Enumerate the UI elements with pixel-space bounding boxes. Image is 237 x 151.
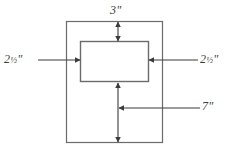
right-dimension-label: 2½" xyxy=(200,53,218,65)
figure-canvas xyxy=(0,0,237,151)
left-dimension-unit: " xyxy=(17,52,22,66)
left-dimension-label: 2½" xyxy=(4,53,22,65)
dimensioned-rectangle-figure: 3" 2½" 2½" 7" xyxy=(0,0,237,151)
bottom-dimension-label: 7" xyxy=(202,100,213,112)
top-dimension-label: 3" xyxy=(110,4,121,16)
inner-opening-rectangle xyxy=(81,42,149,82)
right-dimension-unit: " xyxy=(213,52,218,66)
